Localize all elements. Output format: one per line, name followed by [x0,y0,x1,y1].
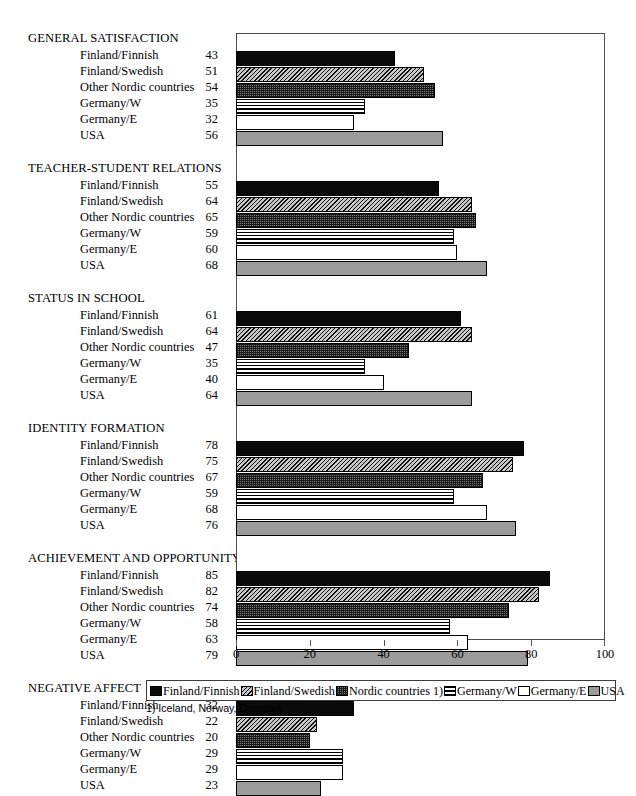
category-group: ACHIEVEMENT AND OPPORTUNITYFinland/Finni… [0,550,236,663]
bar-1 [236,587,539,602]
series-name: Germany/W [80,616,141,630]
series-row-label: USA23 [0,777,236,793]
series-value: 35 [192,355,218,371]
group-spacer [0,273,236,290]
footnote-text: 1) Iceland, Norway, Denmark [146,702,282,714]
axis-tick-label: 20 [304,646,316,662]
series-name: Germany/W [80,356,141,370]
series-value: 54 [192,79,218,95]
series-name: Germany/W [80,226,141,240]
series-row-label: Finland/Swedish64 [0,323,236,339]
bar-5 [236,391,472,406]
series-name: Finland/Finnish [80,48,159,62]
series-name: Finland/Finnish [80,438,159,452]
bar-2 [236,343,409,358]
series-name: Other Nordic countries [80,210,194,224]
series-row-label: Germany/W59 [0,225,236,241]
legend-label: Germany/E [531,684,587,698]
series-name: Other Nordic countries [80,340,194,354]
series-name: Finland/Swedish [80,324,163,338]
series-value: 51 [192,63,218,79]
series-value: 20 [192,729,218,745]
legend-item: USA [588,684,626,698]
series-name: Germany/E [80,372,137,386]
series-value: 64 [192,323,218,339]
legend: Finland/FinnishFinland/SwedishNordic cou… [146,680,616,701]
bar-2 [236,733,310,748]
series-name: Germany/E [80,112,137,126]
series-row-label: Other Nordic countries47 [0,339,236,355]
legend-swatch-horizontal-lines [444,686,456,696]
category-group: TEACHER-STUDENT RELATIONSFinland/Finnish… [0,160,236,273]
bar-1 [236,197,472,212]
series-row-label: Finland/Finnish55 [0,177,236,193]
bar-1 [236,717,317,732]
series-value: 29 [192,745,218,761]
category-group-title: GENERAL SATISFACTION [0,30,236,47]
legend-item: Finland/Finnish [150,684,241,698]
bar-3 [236,229,454,244]
bar-3 [236,619,450,634]
series-row-label: Germany/W35 [0,95,236,111]
legend-label: Nordic countries 1) [349,684,443,698]
series-value: 64 [192,387,218,403]
series-value: 75 [192,453,218,469]
x-axis: 020406080100 [236,640,605,666]
bar-2 [236,603,509,618]
series-value: 55 [192,177,218,193]
series-row-label: USA76 [0,517,236,533]
series-value: 65 [192,209,218,225]
series-value: 85 [192,567,218,583]
series-row-label: Other Nordic countries67 [0,469,236,485]
category-group-title: IDENTITY FORMATION [0,420,236,437]
series-row-label: Germany/E68 [0,501,236,517]
series-name: Finland/Swedish [80,194,163,208]
series-value: 63 [192,631,218,647]
series-value: 60 [192,241,218,257]
series-row-label: USA68 [0,257,236,273]
series-name: Other Nordic countries [80,730,194,744]
series-row-label: USA56 [0,127,236,143]
series-value: 59 [192,485,218,501]
bar-3 [236,99,365,114]
bar-2 [236,473,483,488]
bar-2 [236,213,476,228]
series-value: 68 [192,257,218,273]
category-group-title: TEACHER-STUDENT RELATIONS [0,160,236,177]
legend-label: Finland/Finnish [163,684,240,698]
series-name: USA [80,518,105,532]
bar-5 [236,131,443,146]
series-value: 82 [192,583,218,599]
bar-0 [236,571,550,586]
axis-tick-label: 100 [596,646,615,662]
group-spacer [0,533,236,550]
series-name: Finland/Swedish [80,584,163,598]
series-row-label: Other Nordic countries74 [0,599,236,615]
series-name: Germany/E [80,762,137,776]
series-row-label: Finland/Finnish61 [0,307,236,323]
series-row-label: Germany/E63 [0,631,236,647]
series-name: Finland/Finnish [80,568,159,582]
bar-3 [236,489,454,504]
series-row-label: Finland/Swedish64 [0,193,236,209]
group-spacer [0,403,236,420]
category-group-title: STATUS IN SCHOOL [0,290,236,307]
series-value: 35 [192,95,218,111]
legend-swatch-white-empty [518,686,530,696]
series-row-label: Germany/E60 [0,241,236,257]
series-value: 67 [192,469,218,485]
legend-item: Nordic countries 1) [336,684,444,698]
series-row-label: Finland/Swedish75 [0,453,236,469]
series-name: Germany/W [80,746,141,760]
series-row-label: Germany/W59 [0,485,236,501]
legend-swatch-diagonal-hatch [241,686,253,696]
series-name: Germany/E [80,632,137,646]
series-row-label: Finland/Finnish85 [0,567,236,583]
series-row-label: Other Nordic countries54 [0,79,236,95]
bar-5 [236,781,321,796]
bar-4 [236,245,457,260]
series-row-label: Finland/Swedish51 [0,63,236,79]
series-row-label: Finland/Finnish43 [0,47,236,63]
bar-0 [236,311,461,326]
